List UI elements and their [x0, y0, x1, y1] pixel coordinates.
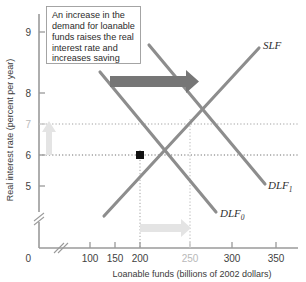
supply-curve-label: SLF: [263, 39, 282, 51]
rate-increase-arrow-icon: [42, 121, 56, 155]
loanable-funds-figure: 9 8 7 6 5 0 100 150 200 250 300 350 Real…: [0, 0, 306, 282]
demand-new-curve-label: DLF1: [267, 179, 293, 194]
demand-for-loanable-funds-old-curve: [100, 72, 216, 212]
demand-new-curve-label-text: DLF: [267, 179, 289, 191]
y-tick-label-6: 6: [25, 150, 31, 161]
demand-old-curve-label-text: DLF: [219, 207, 241, 219]
demand-old-curve-label-subscript: 0: [241, 213, 245, 222]
x-axis-title: Loanable funds (billions of 2002 dollars…: [112, 269, 271, 279]
x-tick-label-150: 150: [107, 253, 124, 264]
y-tick-label-9: 9: [25, 27, 31, 38]
demand-new-curve-label-subscript: 1: [289, 185, 293, 194]
callout-line-1: An increase in the: [52, 10, 125, 20]
y-tick-label-7: 7: [25, 119, 31, 130]
y-tick-label-0: 0: [25, 253, 31, 264]
x-tick-label-350: 350: [268, 253, 285, 264]
callout-line-4: interest rate and: [52, 43, 118, 53]
y-axis-title: Real interest rate (percent per year): [5, 59, 15, 202]
x-tick-label-300: 300: [224, 253, 241, 264]
callout-line-5: increases saving: [52, 53, 120, 63]
y-tick-label-5: 5: [25, 181, 31, 192]
x-tick-label-100: 100: [82, 253, 99, 264]
callout-box: An increase in the demand for loanable f…: [47, 7, 141, 64]
chart-canvas: 9 8 7 6 5 0 100 150 200 250 300 350 Real…: [0, 0, 306, 282]
y-tick-label-8: 8: [25, 88, 31, 99]
demand-old-curve-label: DLF0: [219, 207, 245, 222]
curve-labels: SLF DLF1 DLF0: [219, 39, 293, 222]
demand-for-loanable-funds-new-curve: [149, 45, 265, 184]
original-equilibrium-marker: [136, 151, 144, 159]
curves: [100, 45, 265, 216]
callout-line-3: funds raises the real: [52, 32, 134, 42]
callout-line-2: demand for loanable: [52, 21, 135, 31]
x-tick-labels: 100 150 200 250 300 350: [82, 253, 285, 264]
y-axis-break-mark-icon: [34, 213, 44, 221]
y-tick-labels: 9 8 7 6 5 0: [25, 27, 31, 264]
annotation-arrows-light: [42, 121, 191, 237]
x-tick-label-200: 200: [132, 253, 149, 264]
x-tick-label-250: 250: [182, 253, 199, 264]
supply-of-loanable-funds-curve: [104, 48, 259, 216]
saving-increase-arrow-icon: [140, 219, 191, 237]
